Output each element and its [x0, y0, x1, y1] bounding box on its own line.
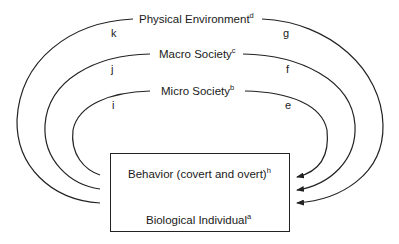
ring-label-text: Macro Society	[159, 48, 232, 60]
letter-i: i	[112, 100, 114, 111]
letter-e: e	[285, 100, 291, 111]
letter-g: g	[283, 28, 289, 39]
letter-f: f	[286, 64, 289, 75]
ring-label-text: Physical Environment	[139, 13, 250, 25]
ring-label-physical-environment: Physical Environmentd	[136, 12, 257, 26]
footnote-marker: h	[267, 166, 271, 175]
behavior-text: Behavior (covert and overt)	[128, 168, 267, 180]
footnote-marker: d	[250, 11, 254, 20]
footnote-marker: b	[230, 83, 234, 92]
ring-label-micro-society: Micro Societyb	[158, 84, 237, 98]
footnote-marker: c	[232, 46, 236, 55]
ring-label-text: Micro Society	[161, 85, 230, 97]
biological-individual-label: Biological Individuala	[146, 213, 251, 227]
ring-label-macro-society: Macro Societyc	[156, 47, 239, 61]
letter-k: k	[111, 28, 117, 39]
footnote-marker: a	[247, 212, 251, 221]
biological-individual-text: Biological Individual	[146, 214, 247, 226]
behavior-label: Behavior (covert and overt)h	[128, 167, 271, 181]
letter-j: j	[111, 64, 113, 75]
